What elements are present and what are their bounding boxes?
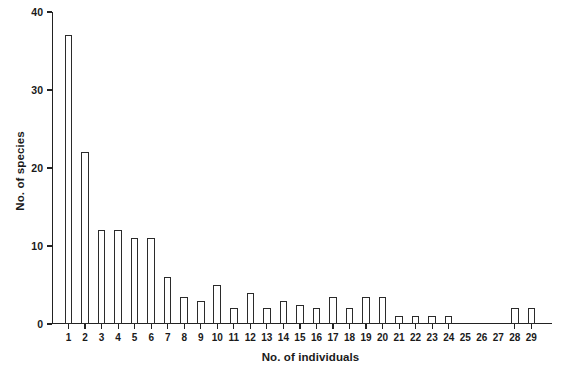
bar [114,230,122,324]
bar [313,308,321,324]
x-axis-tick [118,324,119,329]
plot-area: 010203040 123456789101112131415161718192… [52,12,552,324]
y-axis-tick: 20 [47,167,52,168]
x-axis-tick [283,324,284,329]
x-axis-tick-label: 20 [377,332,388,343]
x-axis-tick [316,324,317,329]
x-axis-tick [151,324,152,329]
bar [98,230,106,324]
bar [445,316,453,324]
y-axis-label: No. of species [10,6,30,336]
x-axis-tick-label: 13 [261,332,272,343]
x-axis-tick-label: 27 [493,332,504,343]
x-axis-tick-label: 9 [198,332,204,343]
x-axis-tick [514,324,515,329]
bar [296,305,304,325]
chart-figure: No. of species 010203040 123456789101112… [0,0,569,372]
bar [346,308,354,324]
x-axis-tick [415,324,416,329]
x-axis-tick-label: 5 [132,332,138,343]
bar [528,308,536,324]
bar [511,308,519,324]
x-axis-tick-label: 4 [115,332,121,343]
bar [263,308,271,324]
bar [131,238,139,324]
x-axis-tick [184,324,185,329]
x-axis-tick-label: 24 [443,332,454,343]
y-axis-tick: 40 [47,11,52,12]
bar [395,316,403,324]
x-axis-tick-label: 23 [427,332,438,343]
bar [180,297,188,324]
x-axis-tick-label: 21 [394,332,405,343]
y-axis-line [52,12,53,324]
bar [81,152,89,324]
y-axis-tick: 0 [47,323,52,324]
x-axis-tick-label: 14 [278,332,289,343]
x-axis-tick-label: 11 [229,332,240,343]
bar [65,35,73,324]
bar [329,297,337,324]
bar [428,316,436,324]
bar [247,293,255,324]
y-axis-tick-label: 0 [37,318,43,330]
x-axis-tick [233,324,234,329]
bar [213,285,221,324]
y-axis-tick-label: 20 [31,162,43,174]
x-axis-tick [382,324,383,329]
x-axis-tick-label: 18 [344,332,355,343]
y-axis-tick-label: 40 [31,6,43,18]
x-axis-tick-label: 28 [509,332,520,343]
y-axis-tick: 10 [47,245,52,246]
bar [230,308,238,324]
x-axis-tick-label: 15 [294,332,305,343]
y-axis-tick-label: 30 [31,84,43,96]
x-axis-tick-label: 6 [148,332,154,343]
x-axis-tick [349,324,350,329]
x-axis-tick-label: 16 [311,332,322,343]
x-axis-tick-label: 8 [181,332,187,343]
x-axis-tick-label: 17 [327,332,338,343]
x-axis-tick-label: 19 [360,332,371,343]
x-axis-tick [266,324,267,329]
x-axis-tick [250,324,251,329]
x-axis-tick [448,324,449,329]
x-axis-tick [167,324,168,329]
x-axis-tick [200,324,201,329]
x-axis-tick-label: 22 [410,332,421,343]
x-axis-tick [217,324,218,329]
x-axis-tick-label: 29 [526,332,537,343]
x-axis-tick [432,324,433,329]
bar [379,297,387,324]
x-axis-tick-label: 7 [165,332,171,343]
x-axis-tick [68,324,69,329]
x-axis-tick-label: 26 [476,332,487,343]
x-axis-label: No. of individuals [0,351,569,363]
bar [280,301,288,324]
x-axis-tick-label: 12 [245,332,256,343]
bar [164,277,172,324]
bar [412,316,420,324]
x-axis-tick [299,324,300,329]
x-axis-tick [332,324,333,329]
x-axis-tick [101,324,102,329]
bar [197,301,205,324]
x-axis-tick-label: 1 [66,332,72,343]
x-axis-tick [84,324,85,329]
x-axis-tick [365,324,366,329]
x-axis-tick-label: 3 [99,332,105,343]
x-axis-tick-label: 2 [82,332,88,343]
y-axis-tick-label: 10 [31,240,43,252]
x-axis-tick [134,324,135,329]
x-axis-tick-label: 25 [460,332,471,343]
x-axis-tick [399,324,400,329]
x-axis-tick-label: 10 [212,332,223,343]
x-axis-tick [531,324,532,329]
bar [362,297,370,324]
bar [147,238,155,324]
y-axis-tick: 30 [47,89,52,90]
